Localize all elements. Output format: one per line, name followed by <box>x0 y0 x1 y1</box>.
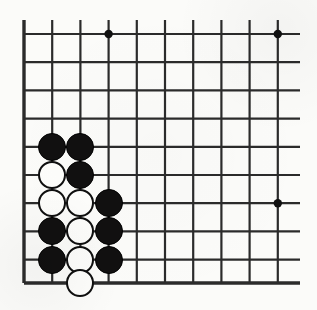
stone-white-c2r6 <box>38 161 66 189</box>
star-point-top <box>104 30 112 38</box>
go-board-diagram <box>0 0 317 310</box>
stone-black-c2r9 <box>38 246 66 274</box>
star-point-right <box>274 199 282 207</box>
stone-black-c2r5 <box>38 133 66 161</box>
stone-black-c4r9 <box>95 246 123 274</box>
star-point-top-right <box>274 30 282 38</box>
board-surface <box>0 0 317 310</box>
stone-black-c3r5 <box>66 133 94 161</box>
stone-black-c4r7 <box>95 189 123 217</box>
stone-black-c4r8 <box>95 217 123 245</box>
